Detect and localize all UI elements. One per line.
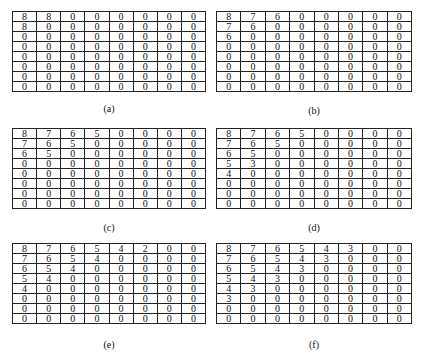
grid-cell: 0 — [241, 189, 265, 199]
grid-row: 60000000 — [217, 32, 412, 42]
grid-cell: 0 — [387, 12, 411, 22]
grid-cell: 0 — [314, 179, 338, 189]
grid-cell: 7 — [241, 129, 265, 139]
grid-cell: 0 — [363, 22, 387, 32]
grid-cell: 0 — [265, 199, 289, 209]
grid-cell: 3 — [217, 294, 241, 304]
grid-cell: 0 — [290, 52, 314, 62]
grid-cell: 0 — [133, 139, 157, 149]
grid-cell: 0 — [363, 72, 387, 82]
grid-cell: 0 — [314, 22, 338, 32]
grid-cell: 0 — [314, 274, 338, 284]
grid-cell: 0 — [314, 159, 338, 169]
grid-cell: 3 — [314, 254, 338, 264]
grid-row: 00000000 — [217, 72, 412, 82]
grid-cell: 0 — [338, 82, 362, 92]
grid-cell: 0 — [314, 139, 338, 149]
grid-row: 65430000 — [217, 264, 412, 274]
grid-cell: 0 — [157, 82, 181, 92]
grid-cell: 4 — [13, 284, 37, 294]
grid-cell: 0 — [387, 189, 411, 199]
grid-b: 8760000076000000600000000000000000000000… — [216, 11, 412, 92]
grid-row: 87650000 — [217, 129, 412, 139]
grid-cell: 0 — [181, 179, 205, 189]
grid-cell: 0 — [85, 139, 109, 149]
grid-cell: 6 — [241, 254, 265, 264]
grid-cell: 0 — [109, 169, 133, 179]
grid-row: 00000000 — [217, 304, 412, 314]
grid-cell: 2 — [133, 244, 157, 254]
grid-cell: 0 — [241, 179, 265, 189]
grid-cell: 0 — [157, 52, 181, 62]
grid-cell: 0 — [387, 274, 411, 284]
grid-cell: 0 — [363, 304, 387, 314]
grid-cell: 4 — [265, 264, 289, 274]
grid-cell: 0 — [157, 159, 181, 169]
grid-row: 87600000 — [217, 12, 412, 22]
grid-cell: 0 — [133, 284, 157, 294]
grid-cell: 0 — [363, 314, 387, 324]
grid-cell: 0 — [338, 149, 362, 159]
grid-cell: 0 — [338, 62, 362, 72]
grid-cell: 0 — [109, 139, 133, 149]
caption-f: (f) — [294, 339, 334, 350]
grid-row: 00000000 — [217, 199, 412, 209]
grid-cell: 0 — [363, 294, 387, 304]
grid-row: 53000000 — [217, 159, 412, 169]
grid-cell: 7 — [217, 254, 241, 264]
grid-cell: 0 — [109, 22, 133, 32]
grid-cell: 0 — [61, 22, 85, 32]
grid-cell: 0 — [157, 274, 181, 284]
grid-cell: 0 — [181, 169, 205, 179]
grid-cell: 0 — [13, 52, 37, 62]
grid-cell: 0 — [338, 139, 362, 149]
grid-cell: 5 — [265, 254, 289, 264]
caption-e: (e) — [89, 339, 129, 350]
grid-cell: 4 — [85, 254, 109, 264]
grid-cell: 3 — [338, 244, 362, 254]
grid-cell: 6 — [241, 22, 265, 32]
grid-cell: 0 — [314, 199, 338, 209]
grid-cell: 0 — [387, 52, 411, 62]
grid-cell: 0 — [85, 22, 109, 32]
grid-cell: 0 — [61, 169, 85, 179]
grid-cell: 0 — [265, 284, 289, 294]
grid-cell: 0 — [338, 294, 362, 304]
grid-cell: 5 — [217, 159, 241, 169]
grid-cell: 0 — [61, 179, 85, 189]
grid-cell: 0 — [85, 62, 109, 72]
grid-cell: 0 — [85, 314, 109, 324]
grid-f: 8765430076543000654300005430000043000000… — [216, 243, 412, 324]
grid-cell: 0 — [181, 12, 205, 22]
grid-cell: 0 — [109, 274, 133, 284]
grid-cell: 0 — [338, 179, 362, 189]
grid-cell: 0 — [265, 82, 289, 92]
grid-cell: 0 — [265, 304, 289, 314]
grid-cell: 0 — [109, 189, 133, 199]
grid-cell: 6 — [265, 12, 289, 22]
grid-row: 00000000 — [13, 304, 206, 314]
grid-cell: 0 — [109, 62, 133, 72]
grid-cell: 0 — [61, 12, 85, 22]
grid-row: 54300000 — [217, 274, 412, 284]
grid-cell: 0 — [387, 304, 411, 314]
grid-cell: 0 — [363, 12, 387, 22]
grid-row: 00000000 — [13, 169, 206, 179]
grid-cell: 0 — [13, 169, 37, 179]
grid-cell: 0 — [181, 139, 205, 149]
grid-cell: 6 — [265, 129, 289, 139]
grid-cell: 0 — [133, 264, 157, 274]
grid-cell: 0 — [387, 32, 411, 42]
grid-cell: 0 — [133, 274, 157, 284]
grid-cell: 0 — [241, 294, 265, 304]
grid-cell: 4 — [37, 274, 61, 284]
grid-cell: 0 — [363, 254, 387, 264]
grid-cell: 0 — [61, 32, 85, 42]
grid-row: 30000000 — [217, 294, 412, 304]
grid-cell: 8 — [37, 12, 61, 22]
grid-cell: 0 — [241, 72, 265, 82]
panel-d: 8765000076500000650000005300000040000000… — [216, 128, 412, 209]
grid-cell: 0 — [37, 32, 61, 42]
grid-cell: 0 — [109, 199, 133, 209]
grid-cell: 0 — [157, 32, 181, 42]
